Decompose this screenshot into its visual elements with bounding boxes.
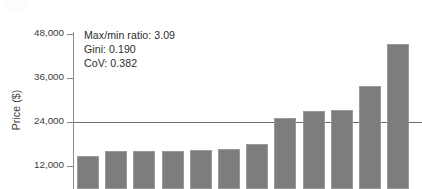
- bar-5: [190, 150, 212, 189]
- bar-4: [162, 151, 184, 189]
- annotation-max-min-ratio: Max/min ratio: 3.09: [84, 28, 175, 42]
- y-tick-mark: [67, 34, 73, 35]
- y-tick-24000: 24,000: [0, 122, 73, 123]
- y-tick-12000: 12,000: [0, 166, 73, 167]
- y-tick-mark: [67, 166, 73, 167]
- bar-10: [331, 110, 353, 189]
- bar-11: [359, 86, 381, 189]
- bar-8: [274, 118, 296, 189]
- statistics-annotation-block: Max/min ratio: 3.09Gini: 0.190CoV: 0.382: [84, 28, 175, 71]
- bar-2: [105, 151, 127, 189]
- y-tick-36000: 36,000: [0, 78, 73, 79]
- y-tick-label: 36,000: [0, 71, 64, 82]
- y-tick-label: 24,000: [0, 115, 64, 126]
- bar-3: [133, 151, 155, 189]
- y-axis-title: Price ($): [10, 70, 22, 150]
- bar-9: [303, 111, 325, 189]
- bar-6: [218, 149, 240, 189]
- y-tick-48000: 48,000: [0, 34, 73, 35]
- y-tick-mark: [67, 122, 73, 123]
- y-tick-label: 12,000: [0, 159, 64, 170]
- y-tick-label: 48,000: [0, 27, 64, 38]
- annotation-cov: CoV: 0.382: [84, 56, 175, 70]
- annotation-gini: Gini: 0.190: [84, 42, 175, 56]
- bar-7: [246, 144, 268, 189]
- chart-figure: Price ($) 48,00036,00024,00012,000 Max/m…: [0, 0, 422, 189]
- bar-1: [77, 156, 99, 189]
- bar-12: [387, 44, 409, 189]
- scan-artifact: [4, 1, 30, 10]
- y-tick-mark: [67, 78, 73, 79]
